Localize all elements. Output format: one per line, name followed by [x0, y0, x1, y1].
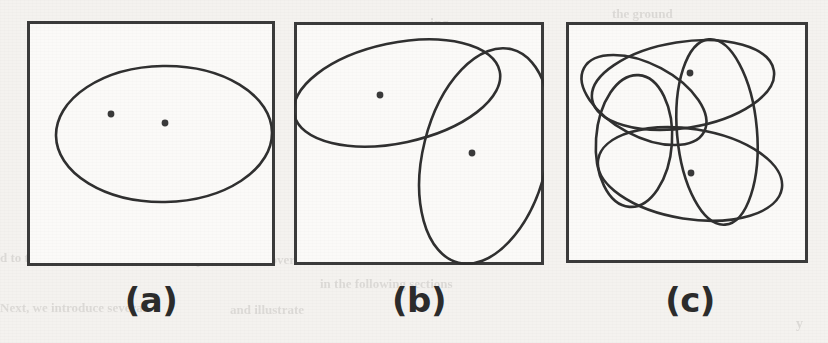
- panel-a-caption: (a): [91, 283, 211, 317]
- ellipse-shape: [294, 22, 510, 163]
- point-marker: [469, 150, 476, 157]
- panel-a-diagram: [27, 21, 275, 266]
- point-marker: [162, 120, 169, 127]
- point-marker: [688, 170, 695, 177]
- point-marker: [377, 92, 384, 99]
- panel-b-caption: (b): [359, 283, 479, 317]
- point-marker: [687, 70, 694, 77]
- panel-c-caption: (c): [630, 283, 750, 317]
- ellipse-shape: [567, 36, 721, 163]
- point-marker: [108, 111, 115, 118]
- bleed-text: and illustrate: [230, 302, 304, 318]
- panel-b: [294, 22, 544, 265]
- panel-c-diagram: [566, 22, 808, 263]
- ellipse-shape: [669, 36, 765, 228]
- ellipse-shape: [398, 34, 544, 265]
- panel-b-diagram: [294, 22, 544, 265]
- figure-root: the groundingto ensureone of theeringNev…: [0, 0, 828, 343]
- bleed-text: y: [796, 316, 803, 332]
- panel-c: [566, 22, 808, 263]
- panel-a: [27, 21, 275, 266]
- ellipse-shape: [55, 64, 273, 204]
- ellipse-shape: [591, 73, 676, 210]
- bleed-text: the ground: [612, 6, 673, 22]
